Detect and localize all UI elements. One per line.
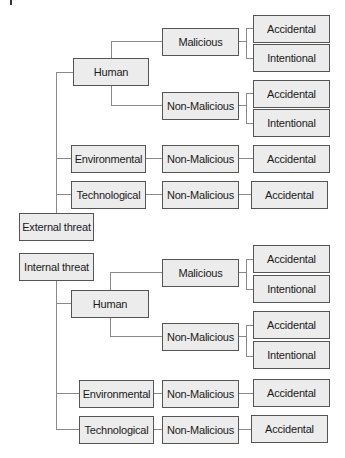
threat-classification-diagram: Human Malicious Accidental Intentional N… (0, 0, 345, 458)
connector (246, 28, 253, 29)
connector (246, 28, 247, 58)
connector (145, 194, 162, 195)
node-external-environmental: Environmental (71, 145, 146, 173)
connector (145, 158, 162, 159)
node-internal-technological-outcome: Accidental (251, 415, 328, 443)
connector (246, 289, 253, 290)
node-external-human-nonmalicious-intentional: Intentional (253, 109, 330, 137)
node-external-human-malicious: Malicious (162, 28, 239, 56)
connector (246, 93, 247, 123)
connector (238, 336, 246, 337)
connector (238, 41, 246, 42)
connector (56, 303, 71, 304)
connector (153, 393, 162, 394)
node-external-environmental-motive: Non-Malicious (162, 145, 239, 173)
connector (56, 194, 71, 195)
node-external-technological-outcome: Accidental (251, 181, 328, 209)
connector (56, 158, 71, 159)
connector (246, 259, 247, 289)
connector (111, 41, 112, 58)
connector (110, 272, 111, 290)
node-external-human: Human (73, 58, 149, 86)
node-internal-human: Human (71, 290, 149, 318)
connector (246, 93, 253, 94)
node-external-human-malicious-accidental: Accidental (253, 15, 330, 43)
connector (56, 393, 79, 394)
connector (56, 72, 57, 213)
connector (110, 317, 111, 337)
connector (238, 105, 246, 106)
node-internal-human-malicious-accidental: Accidental (253, 245, 330, 273)
node-external-threat: External threat (19, 213, 94, 241)
connector (246, 58, 253, 59)
node-internal-human-nonmalicious-intentional: Intentional (253, 341, 330, 369)
connector (111, 85, 112, 106)
node-internal-threat: Internal threat (19, 253, 94, 281)
connector (246, 356, 253, 357)
connector (110, 336, 162, 337)
connector (246, 123, 253, 124)
node-external-human-malicious-intentional: Intentional (253, 44, 330, 72)
connector (238, 158, 253, 159)
node-external-environmental-outcome: Accidental (253, 145, 330, 173)
node-internal-human-malicious: Malicious (162, 259, 239, 287)
connector (238, 429, 251, 430)
node-external-technological-motive: Non-Malicious (162, 181, 239, 209)
page-edge-mark (10, 0, 12, 5)
node-internal-environmental-outcome: Accidental (253, 379, 330, 407)
connector (56, 429, 79, 430)
node-internal-human-malicious-intentional: Intentional (253, 275, 330, 303)
connector (110, 272, 162, 273)
connector (246, 325, 253, 326)
node-internal-human-nonmalicious-accidental: Accidental (253, 311, 330, 339)
connector (246, 325, 247, 356)
node-external-technological: Technological (71, 181, 146, 209)
node-internal-human-nonmalicious: Non-Malicious (162, 323, 239, 351)
connector (111, 105, 162, 106)
node-internal-environmental-motive: Non-Malicious (162, 380, 239, 408)
node-internal-environmental: Environmental (79, 380, 154, 408)
node-external-human-nonmalicious: Non-Malicious (162, 92, 239, 120)
node-internal-technological-motive: Non-Malicious (162, 416, 239, 444)
node-external-human-nonmalicious-accidental: Accidental (253, 80, 330, 108)
connector (111, 41, 162, 42)
connector (238, 393, 253, 394)
connector (238, 272, 246, 273)
connector (153, 429, 162, 430)
connector (246, 259, 253, 260)
connector (238, 194, 251, 195)
connector (56, 72, 73, 73)
node-internal-technological: Technological (79, 416, 154, 444)
